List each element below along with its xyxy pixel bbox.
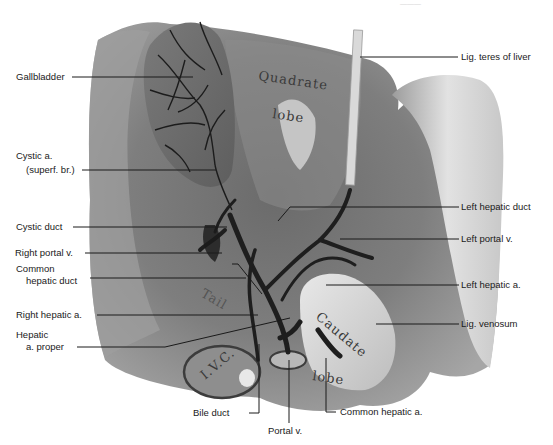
label-right-hepatic-a: Right hepatic a. [16,309,82,321]
label-portal-v: Portal v. [268,425,302,437]
label-left-hepatic-duct: Left hepatic duct [461,201,531,213]
label-cystic-a-superf: (superf. br.) [26,164,75,176]
label-hepatic-a-proper-1: Hepatic [16,329,48,341]
label-common-hepatic-a: Common hepatic a. [340,406,422,418]
label-left-portal-v: Left portal v. [461,233,513,245]
label-gallbladder: Gallbladder [16,71,65,83]
label-lig-teres: Lig. teres of liver [461,51,531,63]
label-bile-duct: Bile duct [193,407,229,419]
label-lig-venosum: Lig. venosum [461,318,518,330]
label-cystic-duct: Cystic duct [16,221,62,233]
label-hepatic-a-proper-2: a. proper [26,341,64,353]
label-common-hepatic-duct-2: hepatic duct [26,275,77,287]
liver-illustration: Quadrate lobe Caudate lobe Tail I.V.C. [0,0,553,445]
page-header-smudge: ——— [400,0,421,7]
label-common-hepatic-duct-1: Common [16,263,55,275]
label-left-hepatic-a: Left hepatic a. [461,279,521,291]
label-cystic-a: Cystic a. [16,150,52,162]
label-right-portal-vein: Right portal v. [15,247,73,259]
